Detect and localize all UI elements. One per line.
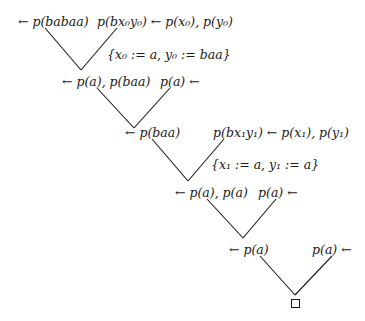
substitution-0: {x₀ := a, y₀ := baa} <box>107 48 231 62</box>
goal-node-4: ← p(a) <box>229 243 269 257</box>
goal-node-3: ← p(a), p(a) <box>175 186 248 200</box>
goal-node-0: ← p(babaa) <box>18 15 89 29</box>
goal-node-1: ← p(a), p(baa) <box>62 75 150 89</box>
goal-node-2: ← p(baa) <box>125 126 180 140</box>
edge-goal2-goal3 <box>152 139 188 181</box>
edge-goal0-goal1 <box>45 28 81 70</box>
edge-fact4-empty <box>295 256 332 295</box>
substitution-2: {x₁ := a, y₁ := a} <box>211 158 319 172</box>
fact-clause-3: p(a) ← <box>258 186 298 200</box>
edge-fact1-goal2 <box>134 88 170 128</box>
edge-goal1-goal2 <box>97 88 134 128</box>
edge-fact3-goal4 <box>243 199 276 238</box>
edge-goal3-goal4 <box>207 199 243 238</box>
program-clause-0: p(bx₀y₀) ← p(x₀), p(y₀) <box>97 15 233 29</box>
fact-clause-1: p(a) ← <box>160 75 200 89</box>
edge-goal4-empty <box>260 256 295 295</box>
fact-clause-4: p(a) ← <box>312 243 352 257</box>
program-clause-2: p(bx₁y₁) ← p(x₁), p(y₁) <box>213 126 349 140</box>
empty-clause-box-icon <box>291 299 300 308</box>
